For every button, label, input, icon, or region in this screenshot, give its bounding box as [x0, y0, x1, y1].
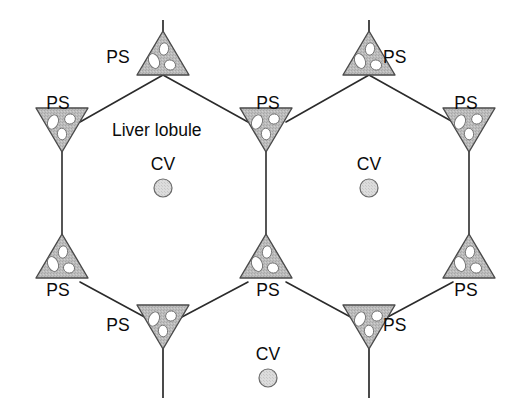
portal-space-label-middle-upper: PS	[256, 93, 280, 113]
central-vein-label-left: CV	[151, 154, 176, 174]
central-vein-label-right: CV	[357, 154, 382, 174]
diagram-canvas: Liver lobule CV CV CV PS PS PS PS PS PS …	[0, 0, 518, 410]
portal-space-label-top-left: PS	[106, 47, 130, 67]
portal-space-label-right-lower: PS	[454, 280, 478, 300]
liver-lobule-diagram: Liver lobule CV CV CV PS PS PS PS PS PS …	[0, 0, 518, 410]
portal-space-label-right-upper: PS	[454, 93, 478, 113]
liver-lobule-label: Liver lobule	[112, 120, 202, 140]
portal-space-label-bottom-left: PS	[106, 315, 130, 335]
central-vein-circle-left[interactable]	[154, 179, 172, 197]
portal-space-label-left-lower: PS	[46, 280, 70, 300]
central-vein-circle-right[interactable]	[360, 179, 378, 197]
portal-space-label-left-upper: PS	[46, 93, 70, 113]
portal-space-label-bottom-right: PS	[383, 315, 407, 335]
central-vein-label-bottom: CV	[256, 344, 281, 364]
central-vein-circle-bottom[interactable]	[259, 369, 277, 387]
portal-space-label-top-right: PS	[383, 47, 407, 67]
portal-space-label-middle-lower: PS	[256, 280, 280, 300]
